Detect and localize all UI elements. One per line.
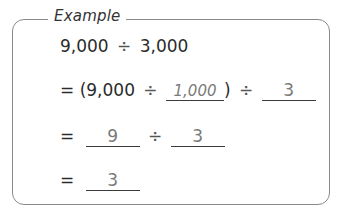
step-2-blank-1[interactable]: 9 xyxy=(86,126,140,147)
step-1-close: ) xyxy=(224,80,231,100)
step-1-operator-2: ÷ xyxy=(239,80,253,100)
step-2-line: = 9 ÷ 3 xyxy=(60,126,225,147)
dividend: 9,000 xyxy=(60,36,109,56)
step-3-line: = 3 xyxy=(60,170,140,191)
step-3-blank-1[interactable]: 3 xyxy=(86,170,140,191)
problem-line: 9,000 ÷ 3,000 xyxy=(60,36,188,56)
divisor: 3,000 xyxy=(140,36,189,56)
step-2-prefix: = xyxy=(60,126,74,146)
step-1-left: 9,000 xyxy=(86,80,135,100)
step-1-blank-2[interactable]: 3 xyxy=(262,80,316,101)
divide-operator: ÷ xyxy=(117,36,131,56)
step-1-operator: ÷ xyxy=(143,80,157,100)
step-3-prefix: = xyxy=(60,170,74,190)
step-1-line: = (9,000 ÷ 1,000) ÷ 3 xyxy=(60,80,316,101)
step-2-blank-2[interactable]: 3 xyxy=(171,126,225,147)
step-2-operator: ÷ xyxy=(148,126,162,146)
step-1-blank-1[interactable]: 1,000 xyxy=(166,82,224,101)
example-title: Example xyxy=(48,7,126,25)
step-1-prefix: = ( xyxy=(60,80,86,100)
